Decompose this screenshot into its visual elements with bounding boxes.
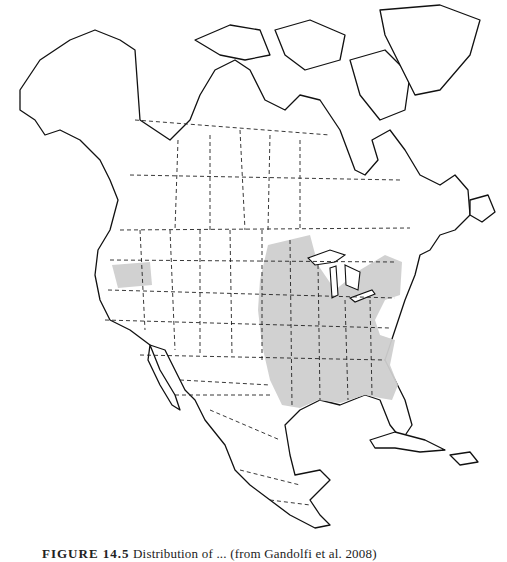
- hispaniola: [450, 452, 478, 465]
- caption-label: FIGURE 14.5: [42, 546, 130, 561]
- arctic-islands: [195, 25, 270, 60]
- cuba: [370, 432, 445, 452]
- newfoundland: [470, 195, 495, 222]
- lake-michigan: [330, 266, 338, 298]
- north-america-map: [0, 0, 507, 530]
- caption-text: Distribution of ... (from Gandolfi et al…: [133, 546, 377, 561]
- arctic-islands-2: [275, 20, 345, 70]
- range-western: [112, 262, 152, 288]
- figure-caption: FIGURE 14.5 Distribution of ... (from Ga…: [42, 546, 502, 562]
